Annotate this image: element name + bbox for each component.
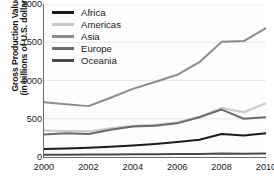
legend-item-americas[interactable]: Americas <box>52 19 121 30</box>
x-tick-label: 2010 <box>256 162 274 172</box>
y-tick-label: 1000 <box>2 76 42 86</box>
legend-item-oceania[interactable]: Oceania <box>52 55 121 66</box>
y-tick-label: 500 <box>2 114 42 124</box>
series-line-africa <box>44 133 266 149</box>
legend-swatch-americas <box>52 23 74 26</box>
x-tick-label: 2004 <box>123 162 143 172</box>
legend-swatch-europe <box>52 47 74 50</box>
legend-label: Asia <box>81 31 100 42</box>
legend-item-africa[interactable]: Africa <box>52 7 121 18</box>
y-tick-label: 0 <box>2 152 42 162</box>
legend-item-europe[interactable]: Europe <box>52 43 121 54</box>
x-tick-label: 2002 <box>78 162 98 172</box>
y-axis-tick-labels: 0500100015002000 <box>0 0 42 179</box>
legend-label: Europe <box>81 43 112 54</box>
y-tick-label: 1500 <box>2 37 42 47</box>
x-tick-label: 2008 <box>211 162 231 172</box>
legend-label: Americas <box>81 19 121 30</box>
line-chart: Gross Production Value (in billions of U… <box>0 0 274 179</box>
legend-swatch-oceania <box>52 59 74 62</box>
chart-legend: AfricaAmericasAsiaEuropeOceania <box>52 7 121 66</box>
legend-label: Oceania <box>81 55 117 66</box>
x-tick-label: 2006 <box>167 162 187 172</box>
legend-label: Africa <box>81 7 106 18</box>
legend-swatch-africa <box>52 11 74 14</box>
legend-item-asia[interactable]: Asia <box>52 31 121 42</box>
series-line-oceania <box>44 153 266 154</box>
legend-swatch-asia <box>52 35 74 38</box>
x-tick-label: 2000 <box>34 162 54 172</box>
y-tick-label: 2000 <box>2 0 42 9</box>
series-line-americas <box>44 103 266 131</box>
